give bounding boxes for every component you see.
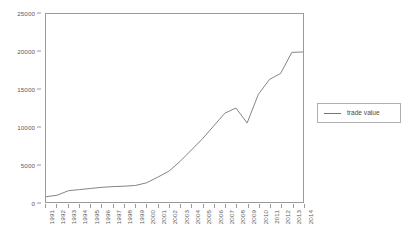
y-axis-tick-mark: [37, 203, 41, 204]
x-axis-tick-mark: [135, 204, 136, 208]
x-axis-tick-mark: [270, 204, 271, 208]
y-axis-tick-label: 20000: [17, 48, 35, 55]
x-axis-tick-mark: [56, 204, 57, 208]
y-axis-tick-label: 10000: [17, 124, 35, 131]
x-axis-tick-label: 1999: [138, 210, 145, 224]
plot-area: [45, 13, 304, 203]
x-axis-tick-label: 1994: [81, 210, 88, 224]
x-axis-tick-mark: [236, 204, 237, 208]
x-axis-tick-mark: [248, 204, 249, 208]
x-axis-tick-label: 1998: [126, 210, 133, 224]
x-axis-tick-label: 2010: [262, 210, 269, 224]
x-axis-tick-label: 2007: [228, 210, 235, 224]
x-axis-tick-mark: [203, 204, 204, 208]
x-axis-tick-label: 2005: [205, 210, 212, 224]
x-axis-tick-mark: [169, 204, 170, 208]
x-axis-tick-label: 2011: [273, 210, 280, 224]
x-axis-tick-label: 2000: [149, 210, 156, 224]
y-axis-tick-label: 0: [31, 200, 35, 207]
x-axis-tick-mark: [101, 204, 102, 208]
x-axis-tick-label: 1991: [48, 210, 55, 224]
x-axis-tick-mark: [304, 204, 305, 208]
x-axis-tick-mark: [225, 204, 226, 208]
x-axis-tick-label: 2012: [284, 210, 291, 224]
y-axis-tick-label: 15000: [17, 86, 35, 93]
x-axis-tick-label: 2008: [239, 210, 246, 224]
x-axis-tick-label: 1997: [115, 210, 122, 224]
y-axis-tick-mark: [37, 51, 41, 52]
x-axis-tick-label: 2002: [171, 210, 178, 224]
x-axis-tick-label: 2003: [183, 210, 190, 224]
x-axis-tick-mark: [124, 204, 125, 208]
y-axis-tick-label: 5000: [21, 162, 35, 169]
legend-item-label: trade value: [347, 109, 380, 117]
x-axis-tick-label: 2006: [217, 210, 224, 224]
series-line: [46, 52, 303, 197]
x-axis-tick-mark: [158, 204, 159, 208]
y-axis: 2500020000150001000050000: [0, 13, 41, 203]
chart-container: 2500020000150001000050000 19911992199319…: [0, 0, 409, 241]
x-axis-tick-mark: [113, 204, 114, 208]
series-line-chart: [46, 14, 303, 202]
x-axis-tick-mark: [180, 204, 181, 208]
x-axis-tick-mark: [281, 204, 282, 208]
y-axis-tick-mark: [37, 165, 41, 166]
y-axis-tick-label: 25000: [17, 10, 35, 17]
x-axis-tick-label: 1992: [59, 210, 66, 224]
x-axis-tick-mark: [68, 204, 69, 208]
chart-legend: trade value: [317, 103, 401, 123]
y-axis-tick-mark: [37, 13, 41, 14]
x-axis: 1991199219931994199519961997199819992000…: [45, 204, 304, 241]
x-axis-tick-label: 2009: [250, 210, 257, 224]
x-axis-tick-mark: [90, 204, 91, 208]
x-axis-tick-mark: [191, 204, 192, 208]
y-axis-tick-mark: [37, 89, 41, 90]
x-axis-tick-label: 2014: [307, 210, 314, 224]
x-axis-tick-label: 2013: [295, 210, 302, 224]
x-axis-tick-label: 1996: [104, 210, 111, 224]
x-axis-tick-mark: [146, 204, 147, 208]
x-axis-tick-label: 1993: [70, 210, 77, 224]
x-axis-tick-mark: [214, 204, 215, 208]
legend-line-swatch: [324, 113, 341, 114]
x-axis-tick-mark: [293, 204, 294, 208]
x-axis-tick-mark: [45, 204, 46, 208]
x-axis-tick-label: 1995: [93, 210, 100, 224]
x-axis-tick-label: 2004: [194, 210, 201, 224]
x-axis-tick-mark: [79, 204, 80, 208]
y-axis-tick-mark: [37, 127, 41, 128]
x-axis-tick-label: 2001: [160, 210, 167, 224]
x-axis-tick-mark: [259, 204, 260, 208]
